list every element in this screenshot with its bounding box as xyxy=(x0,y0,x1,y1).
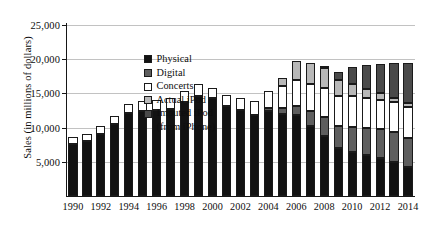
x-tick-label: 1990 xyxy=(63,201,84,212)
bar-segment xyxy=(292,61,301,81)
bar xyxy=(376,25,385,196)
y-tick-label: 25,000 xyxy=(31,20,60,31)
y-tick-label: 10,000 xyxy=(31,122,60,133)
bar xyxy=(292,25,301,196)
legend-item-label: Digital xyxy=(157,67,186,79)
bar xyxy=(320,25,329,196)
bar-segment xyxy=(362,98,371,128)
bar-segment xyxy=(362,65,371,88)
x-tick-label: 2000 xyxy=(202,201,223,212)
bar-segment xyxy=(376,158,385,196)
bar xyxy=(82,25,91,196)
bar-segment xyxy=(306,63,315,84)
bar-segment xyxy=(320,66,329,68)
legend-swatch-icon xyxy=(144,69,152,77)
y-tick-label: 20,000 xyxy=(31,54,60,65)
bar-segment xyxy=(403,138,412,167)
x-tick-label: 2014 xyxy=(398,201,419,212)
bar-segment xyxy=(124,104,133,113)
bar-segment xyxy=(68,137,77,145)
bar-segment xyxy=(264,111,273,196)
x-tick-label: 1998 xyxy=(174,201,195,212)
y-tick-label: 15,000 xyxy=(31,88,60,99)
bar-segment xyxy=(320,68,329,88)
bar-segment xyxy=(362,89,371,98)
legend-swatch-icon xyxy=(144,110,152,118)
bar xyxy=(306,25,315,196)
bar xyxy=(403,25,412,196)
bar-segment xyxy=(278,108,287,114)
bar-segment xyxy=(306,111,315,125)
bar-segment xyxy=(389,63,398,97)
x-tick-label: 1994 xyxy=(118,201,139,212)
bar-segment xyxy=(403,167,412,196)
x-tick-label: 1992 xyxy=(91,201,112,212)
bar-segment xyxy=(96,134,105,196)
bar-segment xyxy=(68,144,77,196)
legend-item: Imputed iPod xyxy=(144,107,264,119)
bar-segment xyxy=(376,64,385,93)
bar-segment xyxy=(403,63,412,103)
bar-segment xyxy=(334,72,343,80)
bar-segment xyxy=(278,86,287,108)
bar-segment xyxy=(320,136,329,196)
bar-segment xyxy=(362,155,371,196)
bar-segment xyxy=(278,78,287,86)
bar xyxy=(96,25,105,196)
chart-legend: PhysicalDigitalConcertsActual iPodImpute… xyxy=(144,53,264,133)
bar-segment xyxy=(264,108,273,111)
bar-segment xyxy=(124,113,133,196)
bar-segment xyxy=(110,116,119,124)
x-tick-label: 1996 xyxy=(146,201,167,212)
bar-segment xyxy=(348,96,357,127)
bar-segment xyxy=(82,141,91,196)
legend-item-label: Concerts xyxy=(157,80,194,92)
bar-segment xyxy=(348,127,357,152)
x-axis-labels: 1990199219941996199820002002200420062008… xyxy=(66,201,415,219)
bar xyxy=(362,25,371,196)
bar xyxy=(389,25,398,196)
bar-segment xyxy=(403,107,412,138)
stacked-bar-chart: Sales (in millions of dollars) 5,00010,0… xyxy=(0,0,431,226)
bar-segment xyxy=(348,84,357,96)
legend-swatch-icon xyxy=(144,96,152,104)
bar-segment xyxy=(376,93,385,99)
y-tick-label: 5,000 xyxy=(36,156,60,167)
legend-item: Concerts xyxy=(144,80,264,92)
x-tick-label: 2002 xyxy=(230,201,251,212)
bar-segment xyxy=(403,103,412,107)
legend-item: Digital xyxy=(144,67,264,79)
bar-segment xyxy=(362,128,371,155)
legend-swatch-icon xyxy=(144,55,152,63)
legend-item: Actual iPod xyxy=(144,94,264,106)
x-tick-label: 2004 xyxy=(258,201,279,212)
bar-segment xyxy=(96,126,105,134)
bar-segment xyxy=(82,134,91,142)
legend-item-label: Physical xyxy=(157,53,192,65)
legend-swatch-icon xyxy=(144,83,152,91)
bar-segment xyxy=(334,96,343,125)
bar xyxy=(124,25,133,196)
bar-segment xyxy=(376,129,385,158)
bar xyxy=(110,25,119,196)
bar xyxy=(68,25,77,196)
bar xyxy=(348,25,357,196)
x-tick-label: 2006 xyxy=(286,201,307,212)
bar-segment xyxy=(292,106,301,116)
bar xyxy=(278,25,287,196)
bar-segment xyxy=(306,126,315,196)
x-axis-line xyxy=(66,196,415,197)
bar-segment xyxy=(389,162,398,196)
bar-segment xyxy=(334,80,343,96)
legend-sub-label: (from iPhone) xyxy=(157,121,265,133)
bar-segment xyxy=(334,126,343,149)
bar-segment xyxy=(320,88,329,117)
plot-area: 5,00010,00015,00020,00025,000 1990199219… xyxy=(66,25,415,196)
legend-item-label: Actual iPod xyxy=(157,94,206,106)
x-tick-label: 2010 xyxy=(342,201,363,212)
bar-segment xyxy=(278,114,287,196)
bar-segment xyxy=(389,102,398,132)
bar-segment xyxy=(389,132,398,161)
bar xyxy=(334,25,343,196)
legend-item-label: Imputed iPod xyxy=(157,107,213,119)
